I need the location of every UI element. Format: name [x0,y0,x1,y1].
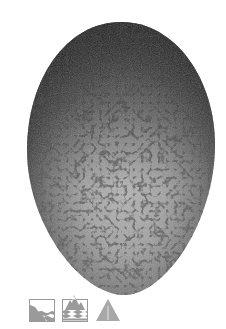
habitat-icon-row [29,294,121,322]
mountain-water-habitat-icon [62,294,88,322]
warning-triangle-icon [95,296,121,322]
cliff-coast-habitat-icon [29,296,55,322]
egg-image [26,20,216,297]
